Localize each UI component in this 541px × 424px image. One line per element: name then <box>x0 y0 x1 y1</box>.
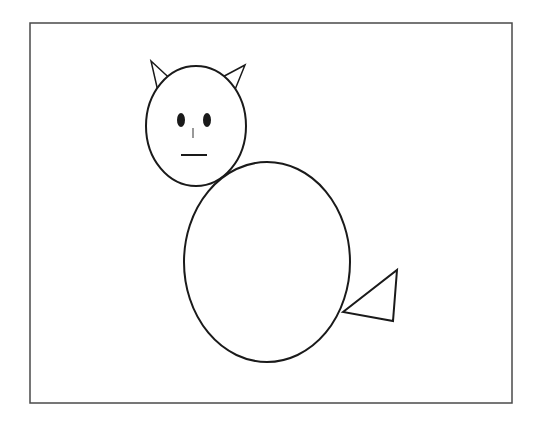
cat-drawing-canvas <box>0 0 541 424</box>
cat-body <box>184 162 350 362</box>
right-eye <box>203 113 211 127</box>
cat-head <box>146 66 246 186</box>
left-eye <box>177 113 185 127</box>
